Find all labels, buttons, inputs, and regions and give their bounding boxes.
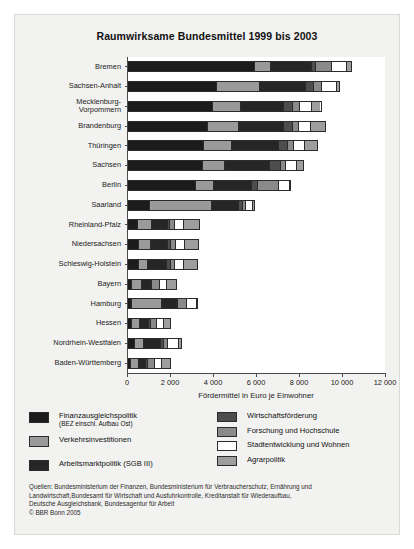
bar-segment: [336, 82, 340, 91]
stacked-bar: [128, 121, 326, 132]
y-axis-label: Bremen: [26, 63, 128, 72]
bar-segment: [141, 280, 149, 289]
chart-title: Raumwirksame Bundesmittel 1999 bis 2003: [15, 30, 399, 42]
stacked-bar: [128, 239, 199, 250]
bar-segment: [269, 161, 280, 170]
bar-segment: [315, 62, 331, 71]
legend-label: Verkehrsinvestitionen: [59, 435, 131, 444]
bar-segment: [299, 102, 311, 111]
legend-text: Wirtschaftsförderung: [247, 411, 317, 420]
x-axis-tick-label: 10 000: [331, 378, 354, 387]
bar-segment: [212, 102, 240, 111]
bar-segment: [147, 359, 154, 368]
bar-segment: [128, 141, 203, 150]
bar-segment: [174, 260, 184, 269]
bar-segment: [163, 319, 170, 328]
legend-text: Forschung und Hochschule: [247, 426, 339, 435]
y-axis-label: Hessen: [26, 319, 128, 328]
legend-sublabel: (BEZ einschl. Aufbau Ost): [59, 420, 137, 428]
stacked-bar: [128, 180, 291, 191]
legend-label: Arbeitsmarktpolitik (SGB III): [59, 459, 153, 468]
x-axis-tick: [213, 373, 214, 377]
bar-segment: [149, 201, 211, 210]
screenshot-root: Raumwirksame Bundesmittel 1999 bis 2003 …: [0, 0, 414, 549]
bar-segment: [183, 220, 199, 229]
bar-row: Saarland: [128, 195, 386, 216]
legend-swatch: [217, 427, 237, 437]
bar-row: Bremen: [128, 56, 386, 77]
legend-text: Finanzausgleichspolitik(BEZ einschl. Auf…: [59, 411, 137, 428]
bar-segment: [289, 181, 291, 190]
legend-swatch: [29, 460, 49, 471]
bar-segment: [154, 359, 161, 368]
source-line-3: Deutsche Ausgleichsbank, Bundesagentur f…: [29, 500, 385, 509]
stacked-bar: [128, 140, 318, 151]
bar-segment: [161, 359, 170, 368]
bar-segment: [138, 260, 147, 269]
bar-segment: [240, 102, 283, 111]
y-axis-label: Brandenburg: [26, 122, 128, 131]
bar-segment: [174, 220, 183, 229]
bar-segment: [311, 102, 321, 111]
bar-segment: [128, 181, 195, 190]
bar-segment: [278, 141, 287, 150]
stacked-bar: [128, 101, 322, 112]
bar-segment: [151, 280, 159, 289]
source-line-2: Landwirtschaft,Bundesamt für Wirtschaft …: [29, 492, 385, 501]
x-axis-title: Fördermittel in Euro je Einwohner: [127, 391, 385, 400]
chart-figure: Raumwirksame Bundesmittel 1999 bis 2003 …: [14, 14, 400, 535]
legend-column-right: WirtschaftsförderungForschung und Hochsc…: [217, 411, 389, 469]
bar-segment: [137, 220, 151, 229]
bar-segment: [138, 240, 150, 249]
legend-swatch: [217, 412, 237, 422]
legend-label: Stadtentwicklung und Wohnen: [247, 440, 349, 449]
bar-segment: [128, 260, 138, 269]
bar-row: Nordrhein-Westfalen: [128, 333, 386, 354]
bar-segment: [321, 82, 336, 91]
bar-segment: [178, 339, 182, 348]
bar-segment: [304, 141, 317, 150]
x-axis-tick: [127, 373, 128, 377]
bar-segment: [161, 299, 176, 308]
source-copyright: © BBR Bonn 2005: [29, 509, 385, 518]
x-axis-tick: [170, 373, 171, 377]
bar-segment: [128, 240, 138, 249]
bar-segment: [259, 82, 305, 91]
stacked-bar: [128, 298, 198, 309]
legend-swatch: [217, 441, 237, 451]
bar-row: Niedersachsen: [128, 234, 386, 255]
bar-segment: [156, 319, 163, 328]
stacked-bar: [128, 338, 182, 349]
bar-segment: [166, 280, 176, 289]
bar-segment: [296, 161, 303, 170]
legend-label: Wirtschaftsförderung: [247, 411, 317, 420]
bar-row: Bayern: [128, 274, 386, 295]
legend-label: Finanzausgleichspolitik: [59, 411, 137, 420]
y-axis-label: Sachsen: [26, 161, 128, 170]
legend-item: Arbeitsmarktpolitik (SGB III): [29, 459, 209, 481]
bar-row: Sachsen-Anhalt: [128, 76, 386, 97]
bar-segment: [203, 141, 231, 150]
chart-legend: Finanzausgleichspolitik(BEZ einschl. Auf…: [27, 411, 389, 477]
bar-segment: [283, 102, 292, 111]
bar-segment: [159, 280, 166, 289]
bar-segment: [305, 82, 314, 91]
legend-item: Stadtentwicklung und Wohnen: [217, 440, 389, 455]
bar-segment: [147, 260, 166, 269]
y-axis-label: Rheinland-Pfalz: [26, 221, 128, 230]
stacked-bar: [128, 259, 198, 270]
legend-text: Stadtentwicklung und Wohnen: [247, 440, 349, 449]
bar-segment: [186, 299, 196, 308]
stacked-bar: [128, 81, 340, 92]
bar-row: Hamburg: [128, 293, 386, 314]
x-axis-tick-label: 0: [125, 378, 129, 387]
bar-row: Berlin: [128, 175, 386, 196]
bar-segment: [184, 240, 198, 249]
bar-segment: [211, 201, 238, 210]
legend-item: Agrarpolitik: [217, 455, 389, 470]
y-axis-label: Schleswig-Holstein: [26, 260, 128, 269]
legend-text: Agrarpolitik: [247, 455, 285, 464]
bar-rows: BremenSachsen-AnhaltMecklenburg- Vorpomm…: [128, 57, 385, 373]
legend-swatch: [29, 412, 49, 423]
bar-segment: [216, 82, 259, 91]
